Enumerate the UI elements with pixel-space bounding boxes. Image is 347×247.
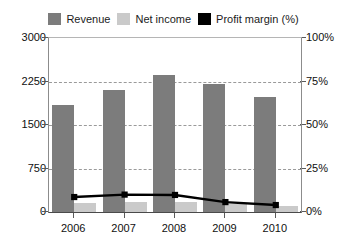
legend-label-net-income: Net income — [135, 13, 191, 25]
y-axis-left-tick-label: 750 — [2, 163, 46, 173]
legend-label-profit-margin: Profit margin (%) — [216, 13, 299, 25]
legend-label-revenue: Revenue — [66, 13, 110, 25]
y-axis-right-tick-label: 100% — [306, 32, 347, 42]
legend-item-profit-margin: Profit margin (%) — [198, 13, 299, 25]
chart-plot-inner — [49, 38, 301, 212]
y-axis-right-tick-label: 75% — [306, 76, 347, 86]
x-axis-tick-label: 2007 — [100, 222, 148, 234]
profit-margin-marker — [273, 202, 279, 208]
x-axis-tick-label: 2006 — [49, 222, 97, 234]
y-axis-left-tick-label: 0 — [2, 206, 46, 216]
legend-item-revenue: Revenue — [48, 13, 110, 25]
y-axis-right-tick-label: 50% — [306, 119, 347, 129]
profit-margin-marker — [222, 199, 228, 205]
y-axis-right-tick-label: 0% — [306, 206, 347, 216]
legend-swatch-profit-margin — [198, 13, 211, 25]
chart-legend: Revenue Net income Profit margin (%) — [0, 9, 347, 29]
y-axis-right-tick-label: 25% — [306, 163, 347, 173]
chart-container: Revenue Net income Profit margin (%) 075… — [0, 0, 347, 247]
chart-plot-area — [48, 37, 302, 213]
y-axis-left-tick-label: 1500 — [2, 119, 46, 129]
profit-margin-line — [49, 38, 301, 212]
legend-swatch-revenue — [48, 13, 61, 25]
x-axis-tick-label: 2008 — [150, 222, 198, 234]
legend-swatch-net-income — [117, 13, 130, 25]
profit-margin-marker — [172, 192, 178, 198]
profit-margin-marker — [122, 192, 128, 198]
x-axis-tick-label: 2010 — [251, 222, 299, 234]
legend-item-net-income: Net income — [117, 13, 191, 25]
profit-margin-marker — [71, 194, 77, 200]
y-axis-left-tick-label: 3000 — [2, 32, 46, 42]
y-axis-left-tick-label: 2250 — [2, 76, 46, 86]
x-axis-tick-label: 2009 — [200, 222, 248, 234]
